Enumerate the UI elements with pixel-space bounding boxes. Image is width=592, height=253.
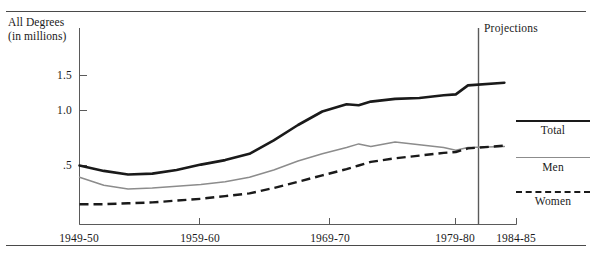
legend-label-total: Total	[516, 124, 590, 136]
chart-figure: All Degrees (in millions) Projections 1.…	[0, 0, 592, 253]
x-tick-marks	[80, 218, 517, 225]
line-series-total	[80, 83, 505, 175]
chart-plot-area	[0, 0, 592, 253]
legend-label-men: Men	[516, 161, 590, 173]
legend-swatch-men	[516, 157, 590, 158]
line-series-men	[80, 142, 505, 189]
legend-label-women: Women	[516, 195, 590, 207]
legend-swatch-total	[516, 120, 590, 122]
legend-swatch-women	[516, 191, 590, 193]
y-tick-marks	[80, 76, 88, 166]
